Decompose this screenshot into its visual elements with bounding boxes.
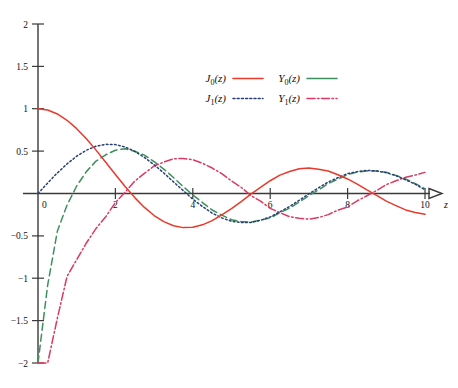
x-axis-label: z xyxy=(443,199,448,210)
y-tick-label-0.5: 0.5 xyxy=(16,147,28,157)
bessel-function-plot-figure: 2 1.5 1 0.5 −0.5 −1 −1.5 −2 0 2 4 6 8 10… xyxy=(0,0,458,388)
curve-J1 xyxy=(38,144,425,222)
legend-label-J0: J0(z) xyxy=(206,72,227,87)
legend-label-Y1: Y1(z) xyxy=(278,92,300,107)
legend: J0(z) Y0(z) J1(z) Y1(z) xyxy=(206,72,338,107)
x-tick-label-4: 4 xyxy=(190,200,195,210)
legend-arg-J0: (z) xyxy=(214,72,226,85)
y-tick-label-neg0.5: −0.5 xyxy=(11,231,28,241)
axes-group xyxy=(23,24,442,363)
curves-group xyxy=(38,109,425,363)
x-tick-label-10: 10 xyxy=(420,200,430,210)
y-tick-label-neg1: −1 xyxy=(18,274,28,284)
legend-arg-Y0: (z) xyxy=(288,72,300,85)
y-tick-label-2: 2 xyxy=(23,20,28,30)
plot-canvas: 2 1.5 1 0.5 −0.5 −1 −1.5 −2 0 2 4 6 8 10… xyxy=(0,0,458,388)
y-tick-label-1: 1 xyxy=(23,104,28,114)
legend-arg-Y1: (z) xyxy=(288,92,300,105)
curve-J0 xyxy=(38,109,425,228)
x-tick-label-0: 0 xyxy=(42,200,47,210)
y-tick-label-1.5: 1.5 xyxy=(16,62,28,72)
x-axis-arrow-icon xyxy=(429,189,442,199)
y-tick-label-neg1.5: −1.5 xyxy=(11,316,28,326)
legend-arg-J1: (z) xyxy=(214,92,226,105)
legend-label-J1: J1(z) xyxy=(206,92,227,107)
y-tick-label-neg2: −2 xyxy=(18,359,28,369)
legend-label-Y0: Y0(z) xyxy=(278,72,300,87)
curve-Y0 xyxy=(38,149,425,363)
